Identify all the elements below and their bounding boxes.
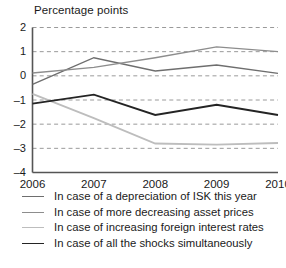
legend-swatch-line xyxy=(22,227,44,228)
legend-item[interactable]: In case of all the shocks simultaneously xyxy=(22,236,286,252)
x-axis-tick-label: 2009 xyxy=(195,179,239,191)
legend-item[interactable]: In case of increasing foreign interest r… xyxy=(22,220,286,236)
legend-item-label: In case of all the shocks simultaneously xyxy=(54,238,252,249)
y-axis-tick-label: –1 xyxy=(4,95,26,106)
legend-item-label: In case of increasing foreign interest r… xyxy=(54,222,264,233)
legend-item[interactable]: In case of more decreasing asset prices xyxy=(22,205,286,221)
legend-item[interactable]: In case of a depreciation of ISK this ye… xyxy=(22,189,286,205)
y-axis-tick-label: –2 xyxy=(4,119,26,130)
y-axis-tick-label: 2 xyxy=(4,22,26,33)
legend-item-label: In case of a depreciation of ISK this ye… xyxy=(54,191,257,202)
legend-swatch-line xyxy=(22,243,44,244)
y-axis-tick-label: 1 xyxy=(4,46,26,57)
line-chart-figure: Percentage points In case of a depreciat… xyxy=(0,0,286,268)
legend-item-label: In case of more decreasing asset prices xyxy=(54,207,254,218)
y-axis-tick-label: 0 xyxy=(4,70,26,81)
y-axis-tick-label: –4 xyxy=(4,167,26,178)
y-axis-tick-label: –3 xyxy=(4,143,26,154)
series-line-0 xyxy=(33,58,279,85)
series-line-3 xyxy=(33,95,279,115)
chart-legend: In case of a depreciation of ISK this ye… xyxy=(22,189,286,251)
legend-swatch-line xyxy=(22,212,44,213)
legend-swatch-line xyxy=(22,196,44,197)
series-line-2 xyxy=(33,94,279,145)
x-axis-tick-label: 2010 xyxy=(256,179,286,191)
x-axis-tick-label: 2008 xyxy=(133,179,177,191)
x-axis-tick-label: 2006 xyxy=(11,179,55,191)
x-axis-tick-label: 2007 xyxy=(72,179,116,191)
